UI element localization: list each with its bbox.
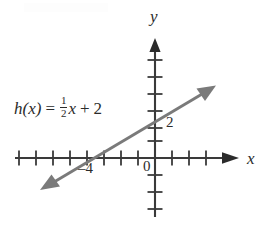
equals-sign: = — [45, 100, 55, 117]
function-equation-label: h(x)=12x+2 — [14, 96, 102, 120]
coordinate-plane — [0, 0, 266, 244]
constant-term: 2 — [94, 100, 103, 117]
y-axis-label: y — [150, 8, 158, 25]
origin-label: 0 — [143, 159, 151, 174]
x-axis-label: x — [247, 150, 255, 167]
graph-figure: h(x)=12x+2 y x 0 2 –4 — [0, 0, 266, 244]
one-half-fraction: 12 — [60, 95, 68, 119]
fraction-numerator: 1 — [60, 95, 68, 107]
x-axis-arrowhead — [222, 152, 239, 164]
x-intercept-label: –4 — [78, 161, 93, 176]
function-line-arrowhead-right — [197, 86, 217, 102]
y-axis-arrowhead — [149, 38, 160, 52]
y-intercept-label: 2 — [166, 115, 174, 130]
function-name: h — [14, 100, 23, 117]
variable-x: x — [68, 100, 76, 117]
fraction-denominator: 2 — [60, 107, 68, 120]
plus-sign: + — [80, 100, 90, 117]
function-line-arrowhead-left — [40, 175, 60, 191]
function-argument: (x) — [23, 100, 42, 117]
